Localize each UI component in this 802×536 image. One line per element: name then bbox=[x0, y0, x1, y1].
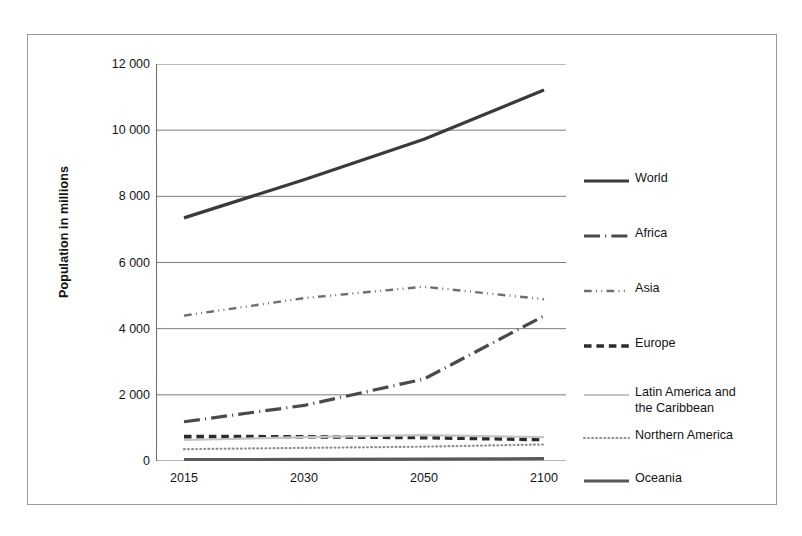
y-tick-label: 8 000 bbox=[80, 189, 150, 203]
legend-line-swatch bbox=[583, 174, 630, 188]
series-line-africa bbox=[184, 316, 544, 422]
y-tick-label: 4 000 bbox=[80, 322, 150, 336]
y-tick-label: 12 000 bbox=[80, 57, 150, 71]
legend-item[interactable]: Oceania bbox=[583, 471, 682, 488]
legend-item-label: Northern America bbox=[635, 428, 733, 444]
legend-line-swatch bbox=[583, 388, 630, 402]
plot-svg bbox=[156, 64, 566, 461]
series-line-world bbox=[184, 90, 544, 218]
y-tick-label: 2 000 bbox=[80, 388, 150, 402]
legend-item-label: Africa bbox=[635, 226, 667, 242]
x-axis-tick-labels: 2015203020502100 bbox=[156, 471, 566, 495]
legend-item-label: Latin America and the Caribbean bbox=[635, 385, 736, 416]
y-axis-tick-labels: 02 0004 0006 0008 00010 00012 000 bbox=[72, 64, 150, 461]
legend-line-swatch bbox=[583, 431, 630, 445]
legend-item-label: Europe bbox=[635, 336, 676, 352]
legend-item[interactable]: Africa bbox=[583, 226, 667, 243]
legend-item[interactable]: World bbox=[583, 171, 668, 188]
x-tick-label: 2050 bbox=[394, 471, 454, 485]
legend-line-swatch bbox=[583, 474, 630, 488]
series-line-oceania bbox=[184, 459, 544, 460]
y-tick-label: 10 000 bbox=[80, 123, 150, 137]
legend-item-label: Oceania bbox=[635, 471, 682, 487]
legend-item[interactable]: Latin America and the Caribbean bbox=[583, 385, 736, 416]
legend-line-swatch bbox=[583, 339, 630, 353]
legend-item-label: World bbox=[635, 171, 668, 187]
legend-item-label: Asia bbox=[635, 281, 660, 297]
x-tick-label: 2015 bbox=[154, 471, 214, 485]
legend-item[interactable]: Northern America bbox=[583, 428, 733, 445]
legend-line-swatch bbox=[583, 229, 630, 243]
x-tick-label: 2100 bbox=[514, 471, 574, 485]
plot-area bbox=[156, 64, 566, 461]
legend-item[interactable]: Europe bbox=[583, 336, 676, 353]
x-tick-label: 2030 bbox=[274, 471, 334, 485]
chart-figure: Population in millions 02 0004 0006 0008… bbox=[27, 34, 777, 505]
y-axis-title: Population in millions bbox=[57, 132, 71, 332]
y-tick-label: 6 000 bbox=[80, 256, 150, 270]
series-line-northern-america bbox=[184, 444, 544, 449]
y-tick-label: 0 bbox=[80, 454, 150, 468]
legend-line-swatch bbox=[583, 284, 630, 298]
legend-item[interactable]: Asia bbox=[583, 281, 660, 298]
series-line-asia bbox=[184, 287, 544, 316]
